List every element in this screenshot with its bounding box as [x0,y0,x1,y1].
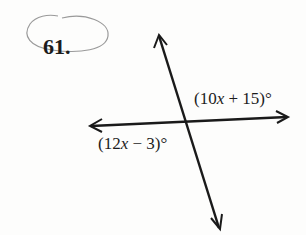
problem-number: 61. [43,36,71,58]
worksheet-figure: 61. (10x + 15)° (12x − 3)° [0,0,306,235]
angle-prefix: (10 [194,89,217,108]
horizontal-line [91,117,287,126]
angle-suffix: − 3)° [128,134,167,153]
angle-prefix: (12 [98,134,121,153]
angle-label-lower-left: (12x − 3)° [98,135,167,152]
angle-label-upper-right: (10x + 15)° [194,90,272,107]
transversal-line [159,36,219,228]
angle-suffix: + 15)° [224,89,272,108]
